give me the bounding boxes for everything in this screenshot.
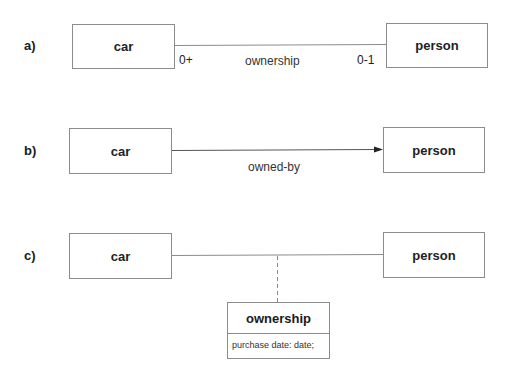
association-class-name: ownership bbox=[228, 303, 329, 334]
person-entity-box: person bbox=[383, 232, 485, 278]
right-multiplicity: 0-1 bbox=[357, 53, 374, 67]
association-class-attribute: purchase date: date; bbox=[228, 334, 329, 350]
left-multiplicity: 0+ bbox=[179, 53, 193, 67]
association-class-box: ownership purchase date: date; bbox=[227, 302, 330, 359]
car-entity-box: car bbox=[72, 24, 175, 69]
car-entity-box: car bbox=[69, 128, 172, 174]
car-entity-name: car bbox=[111, 144, 131, 159]
person-entity-name: person bbox=[415, 38, 458, 53]
association-line bbox=[171, 255, 383, 256]
diagram-label-c: c) bbox=[24, 248, 36, 263]
person-entity-name: person bbox=[412, 248, 455, 263]
car-entity-name: car bbox=[111, 249, 131, 264]
ownership-association-line bbox=[174, 45, 386, 46]
car-entity-name: car bbox=[114, 39, 134, 54]
person-entity-box: person bbox=[383, 127, 485, 173]
person-entity-name: person bbox=[412, 143, 455, 158]
person-entity-box: person bbox=[386, 23, 488, 68]
relationship-name: ownership bbox=[245, 54, 300, 68]
owned-by-arrow-line bbox=[171, 150, 376, 151]
diagram-label-b: b) bbox=[24, 143, 36, 158]
diagram-label-a: a) bbox=[24, 38, 36, 53]
arrowhead-icon bbox=[374, 147, 383, 153]
car-entity-box: car bbox=[69, 233, 172, 279]
relationship-name: owned-by bbox=[248, 160, 300, 174]
